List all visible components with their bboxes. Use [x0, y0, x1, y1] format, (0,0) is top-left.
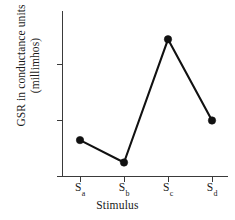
series-line — [80, 39, 212, 162]
x-tick-label-sa-sub: a — [82, 189, 86, 198]
x-tick-label-group: Sa Sb Sc Sd — [0, 181, 235, 199]
x-tick-label-sa: Sa — [75, 181, 85, 196]
data-point-sc — [164, 36, 171, 43]
y-axis-title-line2: (millimhos) — [28, 0, 42, 151]
gsr-line-chart: 0 1 2 GSR in conductance units (millimho… — [0, 0, 235, 220]
x-tick-label-sd-base: S — [207, 181, 213, 193]
data-point-sa — [76, 136, 83, 143]
x-tick-label-sc-base: S — [163, 181, 169, 193]
x-tick-label-sb: Sb — [119, 181, 129, 196]
x-tick-label-sd-sub: d — [214, 189, 218, 198]
y-axis-title: GSR in conductance units (millimhos) — [15, 0, 42, 151]
y-axis-title-line1: GSR in conductance units — [15, 0, 29, 151]
data-point-sb — [120, 159, 127, 166]
x-axis-title: Stimulus — [0, 199, 235, 211]
x-tick-label-sa-base: S — [75, 181, 81, 193]
x-tick-label-sc: Sc — [163, 181, 173, 196]
data-point-sd — [208, 117, 215, 124]
x-tick-label-sb-sub: b — [126, 189, 130, 198]
x-tick-label-sc-sub: c — [170, 189, 174, 198]
x-tick-label-sd: Sd — [207, 181, 217, 196]
x-tick-label-sb-base: S — [119, 181, 125, 193]
